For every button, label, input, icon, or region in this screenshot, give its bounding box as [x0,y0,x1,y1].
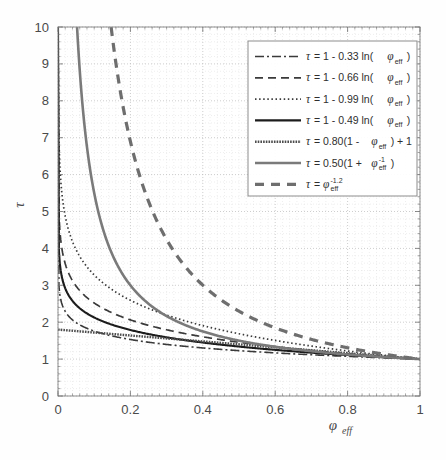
legend-phi-subscript: eff [379,164,387,171]
legend-phi-symbol: φ [387,50,394,63]
legend-equals: = [314,157,320,169]
y-tick-label: 5 [42,204,49,219]
chart-plot: 00.20.40.60.81 012345678910 φ eff τ τ=1 … [0,0,446,460]
y-axis-title: τ [11,202,27,208]
legend-phi-symbol: φ [387,114,394,127]
legend-phi-superscript: -1.2 [331,177,343,184]
legend-phi-subscript: eff [379,143,387,150]
legend-phi-symbol: φ [387,71,394,84]
y-tick-label: 8 [42,93,49,108]
legend-equals: = [314,93,320,105]
legend-expression-close: ) [407,71,411,83]
legend-equals: = [314,50,320,62]
y-tick-label: 3 [42,278,49,293]
legend-expression-close: ) [407,50,411,62]
y-axis-title-tau: τ [11,202,27,208]
legend-equals: = [314,114,320,126]
legend-phi-subscript: eff [395,79,403,86]
y-tick-label: 10 [35,20,49,35]
legend-expression-body: 0.80(1 - [323,135,360,147]
legend-expression-body: 1 - 0.99 ln( [323,93,374,105]
x-tick-label: 0.2 [121,402,139,417]
legend-phi-symbol: φ [323,178,330,191]
legend-expression-body: 1 - 0.49 ln( [323,114,374,126]
legend-expression-body: 1 - 0.66 ln( [323,71,374,83]
y-tick-label: 2 [42,315,49,330]
legend-equals: = [314,71,320,83]
legend-phi-symbol: φ [387,93,394,106]
legend-expression-close: ) + 1 [391,135,412,147]
legend-phi-subscript: eff [395,58,403,65]
y-tick-label: 6 [42,167,49,182]
x-tick-label: 0.4 [194,402,212,417]
chart-legend[interactable]: τ=1 - 0.33 ln(φeff)τ=1 - 0.66 ln(φeff)τ=… [248,41,417,196]
legend-expression-close: ) [407,93,411,105]
x-axis-title-phi: φ [329,417,337,433]
legend-phi-symbol: φ [371,157,378,170]
y-tick-label: 7 [42,130,49,145]
figure-canvas: 00.20.40.60.81 012345678910 φ eff τ τ=1 … [0,0,446,460]
x-tick-label: 0.6 [266,402,284,417]
x-tick-label: 1 [416,402,423,417]
x-tick-label: 0 [54,402,61,417]
x-axis-title-sub: eff [342,425,353,436]
legend-equals: = [314,178,320,190]
y-tick-label: 9 [42,56,49,71]
legend-expression-body: 1 - 0.33 ln( [323,50,374,62]
y-tick-label: 0 [42,389,49,404]
y-tick-label: 1 [42,352,49,367]
legend-expression-close: ) [407,114,411,126]
legend-expression-close: ) [391,157,395,169]
y-tick-label: 4 [42,241,49,256]
legend-equals: = [314,135,320,147]
legend-phi-subscript: eff [395,121,403,128]
legend-phi-symbol: φ [371,135,378,148]
legend-phi-superscript: -1 [379,156,385,163]
legend-phi-subscript: eff [395,100,403,107]
x-tick-label: 0.8 [339,402,357,417]
legend-expression-body: 0.50(1 + [323,157,362,169]
legend-phi-subscript: eff [331,185,339,192]
